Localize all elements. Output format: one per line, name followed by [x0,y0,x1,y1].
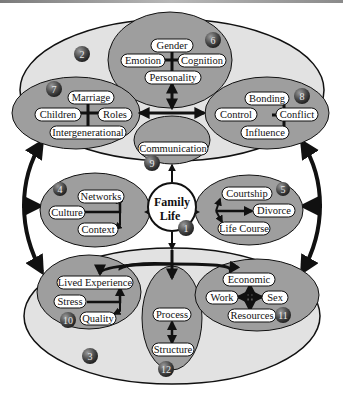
svg-text:3: 3 [88,351,93,362]
svg-text:Cognition: Cognition [181,55,224,66]
badge-3: 3 [82,348,98,364]
pill-stress: Stress [54,295,86,308]
svg-text:Work: Work [210,292,234,303]
pill-quality: Quality [80,312,116,325]
pill-work: Work [206,291,238,304]
svg-text:Quality: Quality [82,313,114,324]
pill-divorce: Divorce [253,204,295,217]
svg-text:Influence: Influence [245,127,285,138]
svg-text:Children: Children [40,109,77,120]
pill-lived-experience: Lived Experience [57,276,133,289]
pill-process: Process [153,308,191,321]
pill-personality: Personality [145,71,201,84]
svg-text:Context: Context [81,224,114,235]
svg-text:Control: Control [220,109,252,120]
badge-5: 5 [276,182,290,196]
pill-emotion: Emotion [121,54,165,67]
svg-text:Personality: Personality [149,72,197,83]
badge-2: 2 [74,46,90,62]
theme-9-cluster [134,116,210,164]
svg-text:Structure: Structure [154,344,193,355]
pill-intergenerational: Intergenerational [50,126,126,139]
svg-text:Resources: Resources [230,310,273,321]
pill-structure: Structure [152,343,194,356]
svg-text:Economic: Economic [228,274,271,285]
svg-text:Emotion: Emotion [125,55,162,66]
svg-text:8: 8 [300,91,305,102]
badge-11: 11 [275,307,291,323]
svg-text:9: 9 [150,158,155,169]
svg-text:Divorce: Divorce [257,205,291,216]
badge-6: 6 [205,32,221,48]
pill-sex: Sex [262,291,288,304]
svg-text:Communication: Communication [139,143,207,154]
svg-text:Lived Experience: Lived Experience [58,277,133,288]
center-label-family: Family [154,195,190,209]
svg-text:Stress: Stress [57,296,82,307]
left-outer-arrows [22,142,42,272]
pill-conflict: Conflict [276,108,318,121]
pill-children: Children [35,108,81,121]
svg-text:Sex: Sex [267,292,284,303]
pill-networks: Networks [78,190,124,203]
pill-resources: Resources [228,309,276,322]
svg-text:7: 7 [52,84,57,95]
badge-4: 4 [53,182,67,196]
svg-text:Marriage: Marriage [72,92,111,103]
svg-text:Bonding: Bonding [249,93,286,104]
svg-text:5: 5 [281,184,286,195]
svg-text:Culture: Culture [51,207,83,218]
pill-influence: Influence [241,126,289,139]
svg-text:Life Course: Life Course [219,223,269,234]
pill-gender: Gender [151,39,193,52]
pill-communication: Communication [138,142,208,155]
pill-courtship: Courtship [222,187,272,200]
family-life-diagram: Gender Emotion Cognition Personality Mar… [0,0,343,401]
svg-text:6: 6 [211,35,216,46]
right-outer-arrows [302,142,322,272]
badge-1: 1 [178,220,194,236]
svg-text:Roles: Roles [103,109,127,120]
badge-9: 9 [144,155,160,171]
svg-text:Process: Process [156,309,188,320]
svg-text:2: 2 [80,49,85,60]
pill-cognition: Cognition [178,54,226,67]
pill-context: Context [78,223,118,236]
svg-text:11: 11 [278,310,288,321]
pill-roles: Roles [98,108,132,121]
pill-marriage: Marriage [68,91,114,104]
pill-economic: Economic [223,273,275,286]
svg-text:4: 4 [58,184,63,195]
pill-life-course: Life Course [218,222,270,235]
pill-bonding: Bonding [245,92,289,105]
svg-text:10: 10 [63,315,73,326]
svg-text:Intergenerational: Intergenerational [52,127,124,138]
svg-text:1: 1 [184,223,189,234]
center-label-life: Life [160,209,181,223]
svg-text:Networks: Networks [81,191,122,202]
badge-7: 7 [46,81,62,97]
svg-text:Courtship: Courtship [226,188,267,199]
pill-control: Control [215,108,257,121]
svg-text:12: 12 [161,364,171,375]
badge-8: 8 [294,88,310,104]
badge-12: 12 [158,361,174,377]
pill-culture: Culture [49,206,85,219]
svg-text:Conflict: Conflict [280,109,314,120]
badge-10: 10 [60,312,76,328]
svg-text:Gender: Gender [157,40,188,51]
